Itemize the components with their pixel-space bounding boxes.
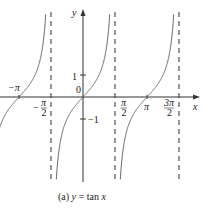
tan-graph: y x 1 0 −1 −π − π 2 π 2 π 3π 2 (a) y = t…: [0, 0, 202, 217]
x-tick-label-pi-half-den: 2: [122, 107, 127, 118]
x-tick-label-neg-pi-half-sign: −: [33, 102, 39, 113]
x-tick-label-pi: π: [144, 101, 150, 112]
x-tick-label-3pi-half-den: 2: [167, 107, 172, 118]
origin-label: 0: [76, 84, 81, 95]
y-axis-arrow-icon: [81, 9, 86, 16]
y-axis-label: y: [71, 7, 77, 18]
y-tick-label-1: 1: [72, 71, 77, 82]
x-tick-label-neg-pi-half-den: 2: [42, 107, 47, 118]
y-tick-label-neg1: −1: [88, 114, 99, 125]
x-axis-label: x: [192, 101, 198, 112]
x-axis-arrow-icon: [193, 95, 200, 100]
x-tick-label-neg-pi: −π: [8, 82, 21, 93]
figure-caption: (a) y = tan x: [58, 191, 106, 203]
